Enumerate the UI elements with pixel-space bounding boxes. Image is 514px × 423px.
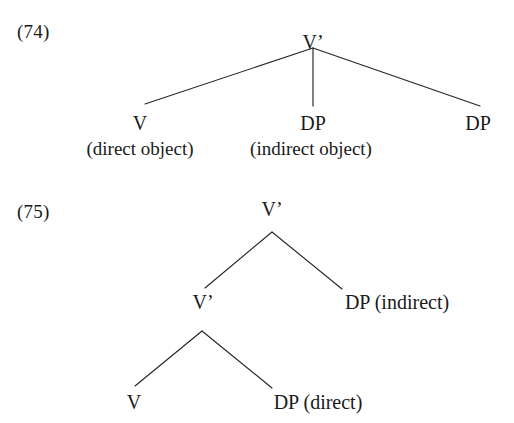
- node-75-leaf-v: V: [127, 392, 141, 412]
- syntax-tree-figure-page: (74) V’ V (direct object) DP (indirect o…: [0, 0, 514, 423]
- example-number-75: (75): [17, 202, 49, 221]
- node-74-leaf-v: V: [133, 113, 147, 133]
- node-75-leaf-dp-direct: DP (direct): [274, 392, 363, 412]
- branch-74-left: [145, 48, 313, 104]
- branch-75-lower-right: [202, 331, 272, 388]
- branch-75-upper-left: [205, 232, 272, 288]
- node-74-leaf-dp: DP: [465, 113, 491, 133]
- node-75-mid-vbar: V’: [192, 292, 213, 312]
- branch-75-lower-left: [135, 331, 202, 386]
- node-75-dp-indirect: DP (indirect): [345, 292, 449, 312]
- branch-75-upper-right: [272, 232, 342, 289]
- node-74-leaf-dp-indirect-sublabel: (indirect object): [250, 139, 372, 158]
- node-75-root-vbar: V’: [261, 199, 282, 219]
- example-number-74: (74): [17, 22, 49, 41]
- node-74-leaf-v-sublabel: (direct object): [86, 139, 193, 158]
- node-74-leaf-dp-indirect: DP: [300, 113, 326, 133]
- tree-branch-lines: [0, 0, 514, 423]
- branch-74-right: [313, 48, 480, 106]
- node-74-root-vbar: V’: [302, 32, 323, 52]
